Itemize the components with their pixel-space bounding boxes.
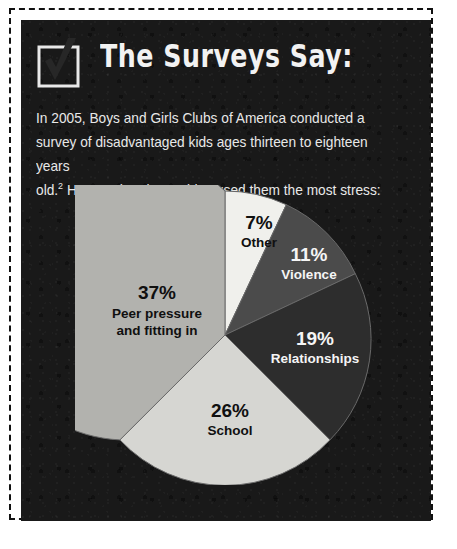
pie-label-peer-pressure-name-1: Peer pressure bbox=[112, 306, 203, 321]
body-line-3-start: old. bbox=[36, 182, 58, 198]
pie-label-other-pct: 7% bbox=[245, 212, 273, 233]
pie-label-peer-pressure-name-2: and fitting in bbox=[117, 323, 198, 338]
content-panel: The Surveys Say: In 2005, Boys and Girls… bbox=[21, 20, 431, 521]
pie-label-relationships-pct: 19% bbox=[296, 328, 334, 349]
stress-causes-pie-chart: 7% Other 11% Violence 19% Relationships … bbox=[75, 185, 375, 485]
pie-label-violence-name: Violence bbox=[281, 267, 337, 282]
pie-label-school-pct: 26% bbox=[211, 400, 249, 421]
pie-label-peer-pressure-pct: 37% bbox=[138, 282, 176, 303]
pie-label-relationships-name: Relationships bbox=[271, 351, 360, 366]
body-line-1: In 2005, Boys and Girls Clubs of America… bbox=[36, 110, 365, 126]
page-title: The Surveys Say: bbox=[100, 37, 353, 75]
body-line-2: survey of disadvantaged kids ages thirte… bbox=[36, 134, 368, 174]
pie-label-other-name: Other bbox=[241, 235, 278, 250]
checkbox-checked-icon bbox=[35, 36, 91, 92]
pie-label-school-name: School bbox=[207, 423, 252, 438]
pie-label-violence-pct: 11% bbox=[291, 244, 328, 265]
header: The Surveys Say: bbox=[21, 20, 431, 106]
